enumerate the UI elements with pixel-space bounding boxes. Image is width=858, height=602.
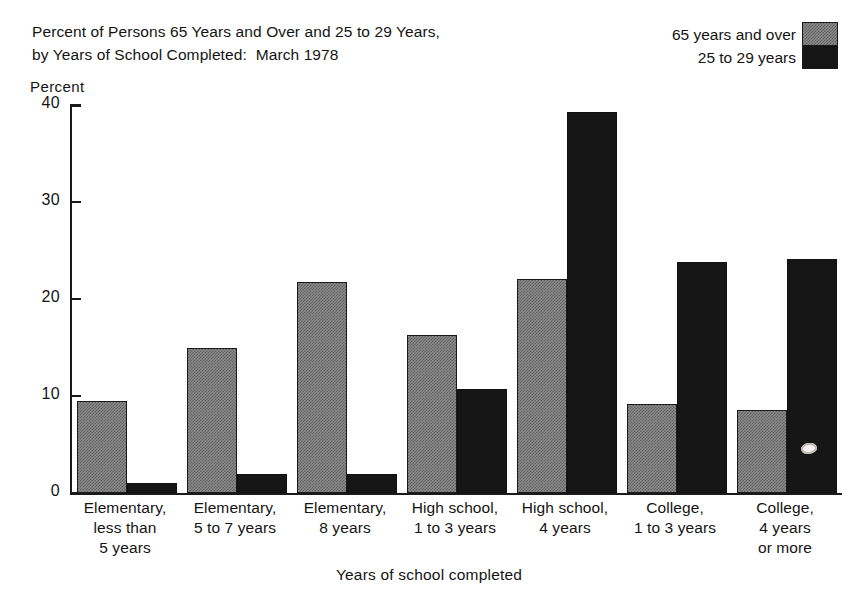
bar-gray-6 [737, 410, 787, 493]
bar-gray-2 [297, 282, 347, 493]
legend-swatch-black-icon [803, 46, 837, 68]
category-label-line: 4 years [718, 518, 852, 538]
y-tick-label-10: 10 [42, 385, 60, 403]
bar-gray-1 [187, 348, 237, 493]
bar-gray-0 [77, 401, 127, 493]
legend-label-65-and-over: 65 years and over [672, 23, 796, 46]
y-tick-label-20: 20 [42, 288, 60, 306]
bar-black-3 [457, 389, 507, 493]
legend-label-25-to-29: 25 to 29 years [698, 46, 796, 69]
bar-black-0 [127, 483, 177, 493]
bar-gray-3 [407, 335, 457, 493]
bar-gray-5 [627, 404, 677, 493]
bar-gray-4 [517, 279, 567, 493]
chart-title-line-1: Percent of Persons 65 Years and Over and… [32, 20, 592, 43]
category-label-line: or more [718, 538, 852, 558]
bar-black-6 [787, 259, 837, 493]
legend-swatch-group [802, 22, 838, 69]
bar-black-1 [237, 474, 287, 493]
x-axis-label: Years of school completed [0, 566, 858, 584]
chart-legend: 65 years and over 25 to 29 years [672, 22, 838, 69]
x-axis-category-labels: Elementary,less than5 yearsElementary,5 … [70, 498, 854, 560]
x-axis-line [70, 493, 842, 495]
category-label-6: College,4 yearsor more [718, 498, 852, 558]
chart-page: Percent of Persons 65 Years and Over and… [0, 0, 858, 602]
bar-black-4 [567, 112, 617, 493]
legend-swatch-gray-icon [803, 23, 837, 46]
y-axis-label: Percent [30, 78, 85, 95]
y-tick-label-40: 40 [42, 94, 60, 112]
y-axis-tick-labels: 010203040 [12, 105, 60, 497]
category-label-line: College, [718, 498, 852, 518]
bar-black-2 [347, 474, 397, 493]
legend-label-list: 65 years and over 25 to 29 years [672, 23, 796, 69]
bar-black-5 [677, 262, 727, 493]
y-tick-label-30: 30 [42, 191, 60, 209]
chart-title-line-2: by Years of School Completed: March 1978 [32, 43, 592, 66]
plot-area: 010203040 [70, 105, 842, 497]
bar-group [72, 105, 842, 493]
chart-title: Percent of Persons 65 Years and Over and… [32, 20, 592, 66]
category-label-line: 5 years [58, 538, 192, 558]
